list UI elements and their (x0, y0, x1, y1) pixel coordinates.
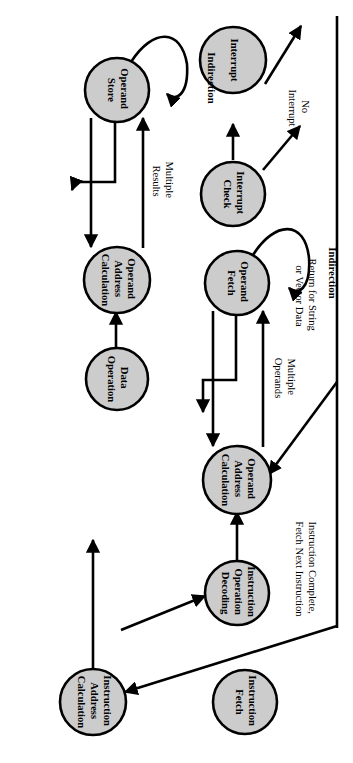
node-operand-address-calculation-upper[interactable]: Operand Address Calculation (84, 247, 150, 313)
node-interrupt-check[interactable]: Interrupt Check (201, 162, 265, 226)
node-operand-address-calculation-lower-label: Operand Address Calculation (220, 454, 257, 506)
node-operand-store-circle[interactable] (85, 58, 149, 122)
node-instruction-address-calculation-label: Instruction Address Calculation (76, 675, 113, 728)
node-data-operation[interactable]: Data Operation (86, 348, 148, 410)
side-label-indirection-store: Indirection (206, 52, 218, 103)
node-operand-fetch[interactable]: Operand Fetch (205, 251, 269, 315)
node-operand-store[interactable]: Operand Store (85, 58, 149, 122)
edge-label-no-interrupt: No Interrupt (287, 89, 311, 126)
diagram-canvas: Interrupt Interrupt Check Operand (0, 0, 353, 763)
instruction-cycle-state-diagram: Interrupt Interrupt Check Operand (0, 0, 353, 763)
edge-label-multiple-operands: Multiple Operands (273, 358, 297, 399)
node-operand-address-calculation-upper-label: Operand Address Calculation (100, 254, 137, 306)
node-data-operation-circle[interactable] (86, 348, 148, 410)
edge-label-multiple-results: Multiple Results (151, 161, 175, 200)
node-instruction-operation-decoding-label: Instruction Operation Decoding (220, 566, 257, 619)
side-label-indirection-fetch: Indirection (327, 247, 339, 298)
node-instruction-address-calculation[interactable]: Instruction Address Calculation (60, 669, 126, 735)
node-instruction-fetch[interactable]: Instruction Fetch (213, 670, 277, 734)
diagram-rotation-wrapper: Interrupt Interrupt Check Operand (0, 0, 353, 763)
edge-interrupt-check-to-spine-no-interrupt (263, 126, 300, 170)
edge-label-return-for-string-or-vector-data: Return for String or Vector Data (294, 258, 318, 333)
edge-if-to-iod (121, 596, 205, 630)
node-interrupt-label: Interrupt (229, 39, 240, 82)
node-instruction-fetch-circle[interactable] (213, 670, 277, 734)
node-operand-fetch-circle[interactable] (205, 251, 269, 315)
node-operand-address-calculation-lower[interactable]: Operand Address Calculation (203, 446, 271, 514)
edge-interrupt-to-spine (265, 26, 301, 84)
edge-label-instruction-complete-fetch-next: Instruction Complete, Fetch Next Instruc… (294, 521, 318, 617)
node-interrupt-check-circle[interactable] (201, 162, 265, 226)
node-instruction-operation-decoding[interactable]: Instruction Operation Decoding (205, 561, 269, 625)
